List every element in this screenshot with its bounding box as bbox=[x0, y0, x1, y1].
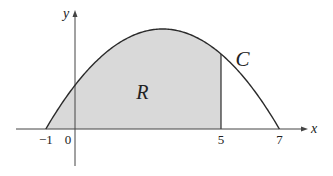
x-axis-label: x bbox=[310, 121, 318, 136]
x-axis-arrow-icon bbox=[301, 127, 308, 132]
figure: x y C R −1 0 5 7 bbox=[0, 0, 333, 176]
curve-label: C bbox=[236, 47, 251, 71]
region-label: R bbox=[135, 81, 148, 103]
x-tick-label: −1 bbox=[39, 132, 53, 147]
y-axis-label: y bbox=[61, 6, 70, 21]
y-axis-arrow-icon bbox=[73, 10, 78, 17]
shaded-region-r bbox=[46, 29, 221, 129]
x-tick-label: 7 bbox=[276, 132, 283, 147]
x-tick-label: 5 bbox=[218, 132, 225, 147]
diagram-canvas: x y C R −1 0 5 7 bbox=[0, 0, 333, 176]
x-tick-label: 0 bbox=[65, 132, 72, 147]
